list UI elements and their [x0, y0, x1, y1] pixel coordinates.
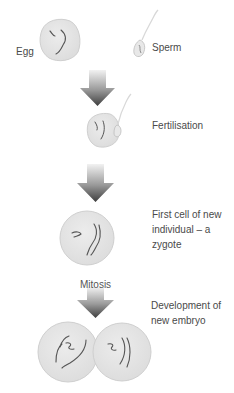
fertilisation-diagram	[0, 0, 234, 393]
label-sperm: Sperm	[152, 41, 181, 55]
label-fertilisation: Fertilisation	[152, 119, 203, 133]
egg-cell	[40, 19, 80, 60]
arrow-down-icon	[77, 164, 114, 202]
label-embryo-line2: new embryo	[151, 314, 205, 328]
label-zygote-line3: zygote	[152, 238, 181, 252]
zygote-cell	[60, 211, 114, 265]
label-mitosis: Mitosis	[80, 278, 111, 292]
label-zygote-line2: individual – a	[152, 223, 210, 237]
arrow-down-icon	[80, 70, 115, 106]
two-cell-embryo	[38, 322, 151, 382]
label-embryo-line1: Development of	[151, 299, 221, 313]
label-egg: Egg	[16, 45, 34, 59]
label-zygote-line1: First cell of new	[152, 208, 221, 222]
